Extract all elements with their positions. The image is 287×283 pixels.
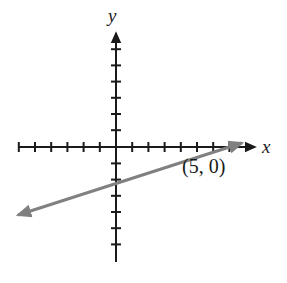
point-coordinate-label: (5, 0)	[182, 155, 225, 178]
x-axis-label: x	[262, 137, 270, 156]
graph-canvas	[0, 0, 287, 283]
y-axis-label: y	[108, 6, 116, 25]
coordinate-plane-figure: y x (5, 0)	[0, 0, 287, 283]
plot-background	[0, 0, 287, 283]
